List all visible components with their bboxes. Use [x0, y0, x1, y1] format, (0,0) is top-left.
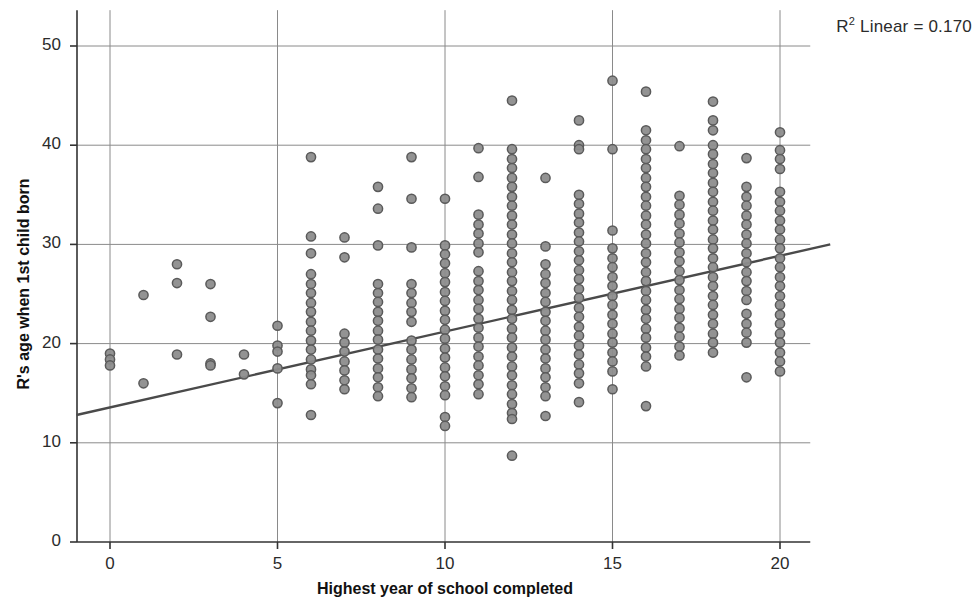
data-point	[574, 266, 583, 275]
data-point	[708, 329, 717, 338]
data-point	[775, 128, 784, 137]
data-point	[373, 297, 382, 306]
data-point	[775, 187, 784, 196]
data-point	[641, 277, 650, 286]
data-point	[172, 278, 181, 287]
data-point	[474, 267, 483, 276]
data-point	[306, 380, 315, 389]
data-point	[708, 141, 717, 150]
data-point	[373, 204, 382, 213]
data-point	[507, 239, 516, 248]
data-point	[641, 154, 650, 163]
data-point	[608, 300, 617, 309]
data-point	[574, 303, 583, 312]
data-point	[306, 249, 315, 258]
data-point	[507, 201, 516, 210]
data-point	[373, 182, 382, 191]
data-point	[675, 304, 684, 313]
data-point	[340, 253, 349, 262]
data-point	[541, 364, 550, 373]
data-point	[507, 249, 516, 258]
data-point	[507, 154, 516, 163]
data-point	[507, 333, 516, 342]
data-point	[641, 182, 650, 191]
data-point	[507, 371, 516, 380]
axis-ticks	[70, 46, 780, 549]
data-point	[407, 194, 416, 203]
data-point	[708, 254, 717, 263]
data-point	[340, 366, 349, 375]
data-point	[675, 313, 684, 322]
data-point	[440, 412, 449, 421]
data-point	[306, 345, 315, 354]
plot-canvas	[0, 0, 980, 614]
data-point	[675, 191, 684, 200]
data-point	[273, 364, 282, 373]
data-point	[507, 220, 516, 229]
data-point	[708, 348, 717, 357]
data-point	[541, 383, 550, 392]
data-point	[675, 332, 684, 341]
data-point	[708, 310, 717, 319]
data-point	[641, 192, 650, 201]
data-point	[742, 277, 751, 286]
data-point	[407, 279, 416, 288]
data-point	[608, 291, 617, 300]
data-point	[742, 220, 751, 229]
data-point	[474, 304, 483, 313]
data-point	[608, 226, 617, 235]
data-point	[775, 146, 784, 155]
data-point	[641, 295, 650, 304]
data-point	[507, 381, 516, 390]
data-point	[775, 310, 784, 319]
data-point	[541, 242, 550, 251]
data-point	[507, 314, 516, 323]
data-point	[474, 361, 483, 370]
y-tick-label: 10	[21, 432, 61, 452]
data-point	[708, 263, 717, 272]
data-point	[440, 363, 449, 372]
data-point	[407, 393, 416, 402]
data-point	[708, 168, 717, 177]
data-point	[440, 194, 449, 203]
data-point	[708, 273, 717, 282]
data-point	[541, 297, 550, 306]
data-point	[641, 136, 650, 145]
data-point	[306, 298, 315, 307]
data-point	[675, 248, 684, 257]
data-point	[507, 362, 516, 371]
data-point	[608, 385, 617, 394]
data-point	[574, 331, 583, 340]
data-point	[139, 379, 148, 388]
data-point	[407, 307, 416, 316]
data-point	[641, 324, 650, 333]
data-point	[507, 163, 516, 172]
data-point	[474, 390, 483, 399]
data-point	[507, 258, 516, 267]
data-point	[608, 319, 617, 328]
data-point	[708, 338, 717, 347]
data-point	[507, 230, 516, 239]
data-point	[507, 295, 516, 304]
data-point	[407, 345, 416, 354]
data-point	[608, 338, 617, 347]
data-point	[608, 263, 617, 272]
data-point	[641, 249, 650, 258]
data-point	[675, 323, 684, 332]
data-point	[407, 374, 416, 383]
data-point	[675, 229, 684, 238]
y-tick-label: 30	[21, 233, 61, 253]
data-point	[708, 197, 717, 206]
data-point	[641, 163, 650, 172]
data-point	[775, 319, 784, 328]
data-point	[373, 383, 382, 392]
data-point	[708, 319, 717, 328]
data-point	[440, 315, 449, 324]
scatter-plot-figure: R2 Linear = 0.170 R's age when 1st child…	[0, 0, 980, 614]
data-point	[742, 239, 751, 248]
data-point	[541, 307, 550, 316]
data-point	[474, 277, 483, 286]
data-point	[474, 323, 483, 332]
data-point	[775, 348, 784, 357]
data-point	[574, 398, 583, 407]
